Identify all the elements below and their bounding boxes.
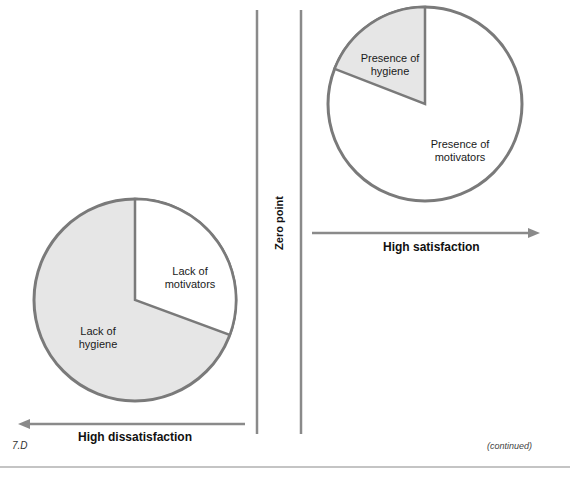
label-line: Presence of [350,52,430,65]
dissatisfaction-arrowhead-icon [18,419,30,429]
label-line: hygiene [58,338,138,351]
label-line: Presence of [420,138,500,151]
presence-of-hygiene-label: Presence of hygiene [350,52,430,78]
label-line: hygiene [350,65,430,78]
zero-point-label: Zero point [273,193,285,253]
satisfaction-pie [328,7,522,201]
continued-note: (continued) [487,441,532,451]
label-line: Lack of [150,265,230,278]
presence-of-motivators-label: Presence of motivators [420,138,500,164]
lack-of-hygiene-label: Lack of hygiene [58,325,138,351]
label-line: Lack of [58,325,138,338]
label-line: motivators [150,278,230,291]
high-satisfaction-label: High satisfaction [383,240,480,254]
label-line: motivators [420,151,500,164]
dissatisfaction-pie [34,199,236,401]
lack-of-motivators-label: Lack of motivators [150,265,230,291]
figure-id: 7.D [12,440,28,451]
satisfaction-arrowhead-icon [528,228,540,238]
diagram-canvas [0,0,570,477]
high-dissatisfaction-label: High dissatisfaction [78,430,192,444]
